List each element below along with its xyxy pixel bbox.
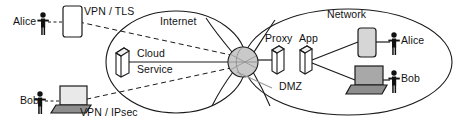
label-vpn-ipsec: VPN / IPsec [80, 107, 138, 118]
label-internet-zone: Internet [160, 16, 196, 27]
tablet-icon-alice-left [63, 6, 82, 37]
server-icon-app [300, 46, 312, 74]
server-icon-cloud-service [116, 48, 129, 77]
laptop-icon-bob-right [346, 66, 387, 94]
person-icon-alice-left [37, 12, 48, 35]
server-icon-proxy [272, 46, 284, 74]
label-cloud-line1: Cloud [137, 48, 165, 59]
app-bob-link [312, 63, 355, 80]
sphere-stub-upper-left [206, 18, 232, 52]
diagram-canvas [0, 0, 453, 125]
label-bob-right: Bob [401, 73, 420, 84]
person-icon-bob-right [388, 70, 399, 93]
label-alice-right: Alice [401, 35, 424, 46]
network-topology-diagram: Alice VPN / TLS Bob VPN / IPsec Internet… [0, 0, 453, 125]
sphere-stub-lower-left [212, 72, 233, 106]
label-proxy: Proxy [265, 33, 292, 44]
label-cloud-line2: Service [137, 64, 173, 75]
app-alice-link [312, 42, 358, 60]
label-network-zone: Network [327, 9, 366, 20]
label-dmz: DMZ [279, 81, 302, 92]
label-bob-left: Bob [20, 95, 39, 106]
tablet-icon-alice-right [358, 28, 376, 57]
label-app: App [299, 33, 318, 44]
label-alice-left: Alice [13, 16, 36, 27]
sphere-stub-lower-right [253, 72, 270, 106]
label-vpn-tls: VPN / TLS [84, 6, 134, 17]
person-icon-alice-right [388, 32, 399, 55]
